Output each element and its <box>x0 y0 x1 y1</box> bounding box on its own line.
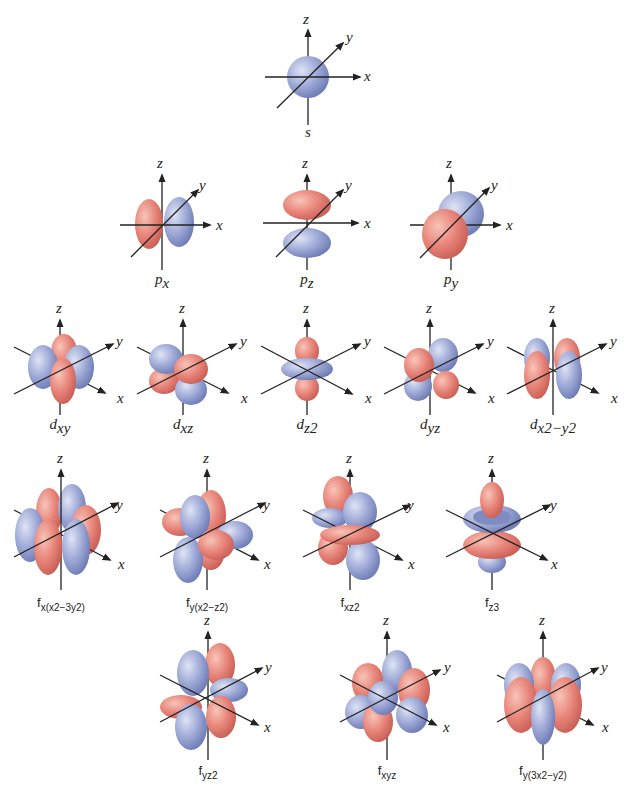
label-fy(x2-z2): fy(x2−z2) <box>186 595 228 613</box>
svg-text:y: y <box>442 659 451 675</box>
label-px: px <box>155 271 169 292</box>
svg-text:y: y <box>343 177 352 193</box>
svg-text:x: x <box>363 215 371 231</box>
svg-text:x: x <box>263 719 271 735</box>
svg-text:x: x <box>363 68 371 84</box>
orbital-py: z x y <box>410 155 513 270</box>
svg-text:z: z <box>345 450 352 466</box>
svg-text:x: x <box>364 390 372 406</box>
label-py: py <box>444 271 458 292</box>
label-fy(3x2-y2): fy(3x2−y2) <box>519 763 567 781</box>
svg-text:x: x <box>117 556 125 572</box>
svg-text:z: z <box>487 450 494 466</box>
svg-text:z: z <box>302 300 309 316</box>
orbital-dx2-y2: z x y <box>507 300 618 415</box>
orbital-fy(3x2-y2): z x y <box>497 612 609 760</box>
orbital-pz: z x y <box>263 155 371 270</box>
label-dxy: dxy <box>50 416 71 437</box>
label-dz2: dz2 <box>297 416 318 437</box>
orbital-fx(x2-3y2): z x y <box>14 450 125 590</box>
svg-text:x: x <box>505 217 513 233</box>
svg-text:y: y <box>548 497 557 513</box>
svg-text:z: z <box>178 300 185 316</box>
svg-text:z: z <box>302 11 309 27</box>
svg-text:z: z <box>301 155 308 171</box>
svg-text:z: z <box>203 612 210 628</box>
svg-text:y: y <box>197 177 206 193</box>
svg-text:x: x <box>215 217 223 233</box>
svg-text:z: z <box>55 300 62 316</box>
svg-text:x: x <box>263 556 271 572</box>
orbital-fy(x2-z2): z x y <box>160 450 271 590</box>
orbital-s: z x y <box>265 11 371 125</box>
svg-text:y: y <box>599 659 608 675</box>
svg-text:x: x <box>487 390 495 406</box>
svg-text:y: y <box>485 333 494 349</box>
svg-text:z: z <box>56 450 63 466</box>
label-pz: pz <box>300 271 313 292</box>
svg-text:z: z <box>445 155 452 171</box>
label-dxz: dxz <box>173 416 193 437</box>
svg-text:y: y <box>344 29 353 45</box>
svg-text:z: z <box>548 300 555 316</box>
orbital-fxyz: z x y <box>340 612 451 760</box>
svg-text:y: y <box>362 333 371 349</box>
label-fyz2: fyz2 <box>198 763 217 781</box>
svg-text:z: z <box>156 155 163 171</box>
orbital-dz2: z x y <box>261 300 372 415</box>
orbital-fyz2: z x y <box>160 612 272 760</box>
orbital-px: z x y <box>120 155 223 270</box>
svg-text:x: x <box>550 556 558 572</box>
orbital-dxz: z x y <box>137 300 248 415</box>
label-fx(x2-3y2): fx(x2−3y2) <box>37 595 85 613</box>
svg-text:x: x <box>116 390 124 406</box>
svg-text:y: y <box>608 333 617 349</box>
svg-text:z: z <box>202 450 209 466</box>
svg-text:z: z <box>425 300 432 316</box>
svg-text:y: y <box>114 333 123 349</box>
orbital-dyz: z x y <box>384 300 495 415</box>
svg-text:x: x <box>601 719 609 735</box>
svg-text:y: y <box>261 497 270 513</box>
svg-text:z: z <box>382 612 389 628</box>
label-fz3: fz3 <box>485 595 499 613</box>
label-s: s <box>305 124 311 141</box>
svg-text:y: y <box>263 659 272 675</box>
label-dx2-y2: dx2−y2 <box>530 416 576 437</box>
label-fxyz: fxyz <box>378 763 397 781</box>
orbital-diagram: z x y z x y z x y z x y <box>0 0 624 790</box>
svg-text:y: y <box>405 497 414 513</box>
label-fxz2: fxz2 <box>340 595 359 613</box>
svg-text:z: z <box>538 612 545 628</box>
orbital-fz3: z x y <box>446 450 558 590</box>
svg-text:x: x <box>442 719 450 735</box>
svg-text:y: y <box>114 497 123 513</box>
orbital-dxy: z x y <box>14 300 124 415</box>
orbital-fxz2: z x y <box>303 450 415 590</box>
svg-text:y: y <box>489 177 498 193</box>
svg-text:y: y <box>238 333 247 349</box>
svg-text:x: x <box>407 556 415 572</box>
label-dyz: dyz <box>420 416 440 437</box>
svg-text:x: x <box>240 390 248 406</box>
svg-text:x: x <box>610 390 618 406</box>
